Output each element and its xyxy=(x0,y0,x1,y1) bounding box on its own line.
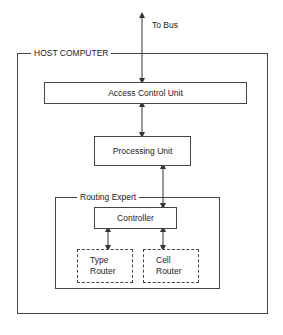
host-computer-label: HOST COMPUTER xyxy=(31,49,111,58)
cell-router-label-line2: Router xyxy=(156,266,182,277)
type-router-box: Type Router xyxy=(77,249,133,283)
processing-unit-label: Processing Unit xyxy=(113,146,173,156)
controller-label: Controller xyxy=(117,213,154,223)
cell-router-label-line1: Cell xyxy=(156,255,182,266)
type-router-label-line2: Router xyxy=(90,266,116,277)
cell-router-box: Cell Router xyxy=(143,249,199,283)
routing-expert-label: Routing Expert xyxy=(77,193,139,202)
access-control-unit-box: Access Control Unit xyxy=(44,82,247,104)
controller-box: Controller xyxy=(94,207,177,229)
access-control-unit-label: Access Control Unit xyxy=(108,88,183,98)
processing-unit-box: Processing Unit xyxy=(94,136,191,166)
type-router-label-line1: Type xyxy=(90,255,116,266)
to-bus-label: To Bus xyxy=(152,21,178,30)
